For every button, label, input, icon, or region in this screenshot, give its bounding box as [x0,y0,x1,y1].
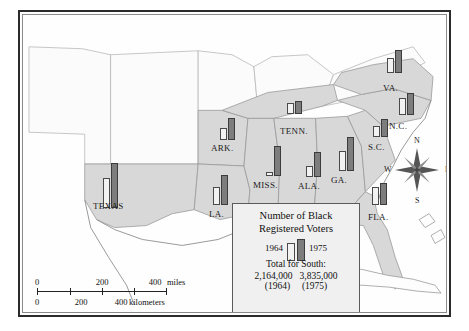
bar-group-south-carolina [373,119,388,137]
compass-star-icon [385,137,447,203]
legend-title-line1: Number of Black [233,209,359,222]
scale-miles-tick-0: 0 [35,277,39,287]
legend-year-1964: 1964 [265,243,283,253]
bar-florida-1964 [372,187,379,205]
state-label-mississippi: MISS. [253,180,278,190]
bar-arkansas-1975 [228,118,235,140]
bar-group-louisiana [213,175,228,205]
map-figure: .s-south{fill:#d8d8d8;stroke:#9a9a9a;str… [0,0,469,331]
bar-tennessee-1964 [287,103,294,114]
legend-paren-1964: (1964) [265,281,290,291]
compass-label-east: E [445,165,447,174]
map-frame: .s-south{fill:#d8d8d8;stroke:#9a9a9a;str… [18,10,451,317]
bar-south-carolina-1975 [381,119,388,137]
bar-arkansas-1964 [220,128,227,140]
map-canvas: .s-south{fill:#d8d8d8;stroke:#9a9a9a;str… [22,14,447,313]
bar-georgia-1964 [339,151,346,171]
state-label-louisiana: LA. [209,209,224,219]
bar-group-georgia [339,137,354,171]
legend-total-label: Total for South: [233,259,359,269]
scale-km-tick-400: 400 [115,297,128,307]
legend-key-years: 1964 1975 [233,243,359,253]
scale-bar: 0 200 400 miles 0 200 400 ki [37,277,197,308]
legend-bar-1975 [297,239,305,261]
compass-label-south: S [415,196,419,205]
scale-km-tick-200: 200 [75,297,88,307]
bar-south-carolina-1964 [373,126,380,137]
state-label-north-carolina: N.C. [389,121,407,131]
scale-ruler [37,288,197,296]
scale-tick-a [37,288,38,295]
bar-louisiana-1975 [221,175,228,205]
scale-miles-labels: 0 200 400 miles [37,277,197,288]
bar-georgia-1975 [347,137,354,171]
scale-miles-unit: miles [167,277,185,287]
scale-km-unit: kilometers [129,297,165,307]
state-label-south-carolina: S.C. [368,142,385,152]
scale-miles-tick-400: 400 [149,277,162,287]
island-shape-bahamas-1 [419,214,435,228]
state-label-virginia: VA. [383,83,398,93]
bar-virginia-1964 [387,58,394,73]
legend-paren-1975: (1975) [302,281,327,291]
scale-tick-c [102,288,103,295]
state-label-texas: TEXAS [93,201,124,211]
island-shape-bahamas-2 [431,230,445,244]
scale-km-tick-0: 0 [35,297,39,307]
bar-group-virginia [387,50,402,73]
bar-group-mississippi [266,146,281,176]
bar-virginia-1975 [395,50,402,73]
scale-miles-tick-200: 200 [96,277,109,287]
state-shape-nonsouth-plains [111,51,199,164]
compass-rose: N E S W [385,137,447,203]
bar-north-carolina-1964 [399,98,406,115]
legend-total-1975: 3,835,000 [300,271,338,281]
bar-group-alabama [306,152,321,177]
scale-tick-d [134,288,135,295]
bar-mississippi-1964 [266,172,273,176]
bar-alabama-1975 [314,152,321,177]
legend-year-1975: 1975 [309,243,327,253]
scale-tick-e [166,288,167,295]
bar-tennessee-1975 [295,101,302,114]
bar-group-tennessee [287,101,302,114]
bar-group-arkansas [220,118,235,140]
compass-label-west: W [384,165,392,174]
legend-total-values: 2,164,000 3,835,000 [233,271,359,281]
state-label-tennessee: TENN. [280,126,308,136]
bar-mississippi-1975 [274,146,281,176]
compass-label-north: N [414,136,420,145]
bar-louisiana-1964 [213,187,220,205]
state-label-florida: FLA. [368,212,388,222]
bar-group-north-carolina [399,93,414,115]
state-label-georgia: GA. [331,175,347,185]
state-label-alabama: ALA. [298,181,320,191]
map-legend: Number of Black Registered Voters 1964 1… [232,203,360,313]
legend-total-1964: 2,164,000 [254,271,292,281]
state-shape-nonsouth-nw [29,47,111,164]
state-label-arkansas: ARK. [211,143,233,153]
bar-north-carolina-1975 [407,93,414,115]
scale-tick-b [70,288,71,295]
state-shape-texas [85,164,198,228]
bar-alabama-1964 [306,166,313,177]
legend-total-years: (1964) (1975) [233,281,359,291]
scale-kilometers-labels: 0 200 400 kilometers [37,297,197,308]
legend-title-line2: Registered Voters [233,222,359,235]
